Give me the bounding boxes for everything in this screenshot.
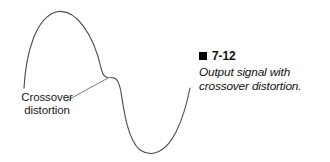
caption-line-2: crossover distortion. xyxy=(199,79,327,93)
figure-caption-heading: 7-12 xyxy=(199,49,327,63)
figure-container: Crossover distortion 7-12 Output signal … xyxy=(0,0,330,162)
figure-number: 7-12 xyxy=(212,49,236,63)
annotation-line-2: distortion xyxy=(4,104,90,117)
crossover-distortion-annotation: Crossover distortion xyxy=(4,91,90,117)
output-signal-waveform xyxy=(24,11,190,153)
figure-caption-text: Output signal with crossover distortion. xyxy=(199,65,327,93)
figure-caption: 7-12 Output signal with crossover distor… xyxy=(199,49,327,93)
annotation-line-1: Crossover xyxy=(4,91,90,104)
caption-line-1: Output signal with xyxy=(199,65,327,79)
black-square-bullet-icon xyxy=(199,52,207,60)
